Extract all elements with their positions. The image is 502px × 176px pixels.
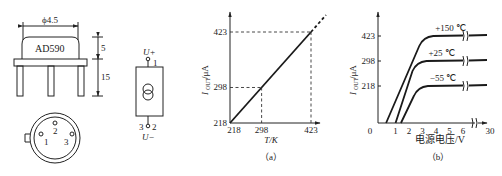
pin-1-label: 1 <box>44 137 49 147</box>
chart-b-series-label-2: −55 ℃ <box>430 73 456 83</box>
chart-a-x-tick-423: 423 <box>304 125 318 135</box>
chart-a-x-tick-218: 218 <box>227 125 241 135</box>
u-minus-label: U− <box>142 132 155 142</box>
chart-a: 218298423218298423 T/K （a） I OUT /μA <box>200 12 326 162</box>
chart-a-y-tick-298: 298 <box>214 82 228 92</box>
chart-a-x-tick-298: 298 <box>255 125 269 135</box>
current-source-circle-bottom <box>143 90 153 100</box>
chart-b-y-label-main: I <box>348 91 358 96</box>
chart-b-x-tick-2: 2 <box>407 126 412 136</box>
chart-b-y-tick-298: 298 <box>362 56 376 66</box>
chart-a-y-label-unit: /μA <box>200 65 210 79</box>
package-flange <box>14 59 87 66</box>
u-plus-label: U+ <box>143 47 156 57</box>
chart-b-y-tick-423: 423 <box>362 31 376 41</box>
lead-right <box>78 66 84 96</box>
diameter-label: ϕ4.5 <box>42 15 58 25</box>
chart-b-series-label-0: +150 ℃ <box>435 23 466 33</box>
cap-height-label: 5 <box>101 43 106 53</box>
chart-b-series-label-1: +25 ℃ <box>429 48 455 58</box>
lead-left <box>17 66 23 96</box>
chart-b-y-label: I OUT /μA <box>348 65 359 96</box>
diagram-canvas: ϕ4.5 AD590 5 15 1 2 3 U+ 1 <box>0 0 502 176</box>
lead-middle <box>48 66 54 96</box>
chart-b-break-2 <box>463 81 468 91</box>
chart-b-series-2 <box>401 85 487 123</box>
chart-b-y-tick-218: 218 <box>362 81 376 91</box>
chart-a-extrapolation <box>311 15 326 32</box>
inner-ring <box>34 117 76 159</box>
chart-b-caption: （b） <box>427 152 450 162</box>
lead-length-label: 15 <box>101 72 111 82</box>
chart-a-caption: （a） <box>260 152 282 162</box>
chip-label: AD590 <box>35 43 64 54</box>
chart-a-y-label-main: I <box>200 91 210 96</box>
chart-a-series-line <box>230 32 311 123</box>
chart-b-y-label-unit: /μA <box>348 65 358 79</box>
chart-b-x-tick-1: 1 <box>393 126 398 136</box>
chart-a-y-tick-423: 423 <box>214 27 228 37</box>
pin-1-hole <box>39 132 43 136</box>
pin-3-hole <box>70 132 74 136</box>
chart-b-x-tick-0: 0 <box>368 126 373 136</box>
bottom-terminal <box>146 124 150 128</box>
chart-b-break-1 <box>463 56 468 66</box>
current-source-symbol: U+ 1 3 2 U− <box>136 47 163 142</box>
pin-2-label: 2 <box>53 126 58 136</box>
chart-b: +150 ℃+25 ℃−55 ℃218298423012345630 电源电压/… <box>348 12 495 162</box>
symbol-body <box>136 67 163 116</box>
chart-b-x-tick-30: 30 <box>486 126 496 136</box>
chart-a-y-label: I OUT /μA <box>200 65 211 96</box>
chart-a-x-label: T/K <box>264 135 279 145</box>
chart-a-y-tick-218: 218 <box>214 118 228 128</box>
bottom-pin-2: 2 <box>152 122 157 132</box>
top-terminal <box>146 57 150 61</box>
pin-3-label: 3 <box>64 137 69 147</box>
pin-2-hole <box>53 121 57 125</box>
bottom-pin-3: 3 <box>139 122 144 132</box>
package-bottom-view: 1 2 3 <box>25 113 80 163</box>
orientation-tab <box>25 134 30 142</box>
package-side-view: ϕ4.5 AD590 5 15 <box>14 15 111 96</box>
chart-b-x-label: 电源电压/V <box>415 133 466 145</box>
current-source-circle-top <box>143 84 153 94</box>
